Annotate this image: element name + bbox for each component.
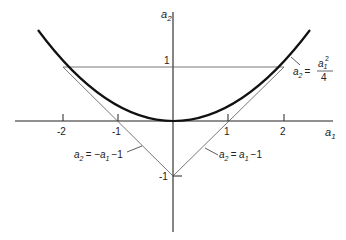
left-line-label: a2= −a1−1 bbox=[74, 149, 123, 162]
parabola-label: a2= a1 2 4 bbox=[293, 55, 333, 83]
right-line-label: a2= a1−1 bbox=[219, 149, 262, 162]
stability-triangle-diagram: a2 a1 -2 -1 1 2 1 -1 a2= a1 2 4 a2= −a1−… bbox=[0, 0, 346, 240]
x-tick-label-neg1: -1 bbox=[112, 126, 121, 137]
svg-text:4: 4 bbox=[321, 72, 327, 83]
parabola-curve bbox=[38, 30, 310, 121]
x-tick-label-2: 2 bbox=[280, 126, 286, 137]
right-line-leader bbox=[205, 148, 218, 155]
y-tick-label-1: 1 bbox=[164, 55, 170, 66]
y-tick-label-neg1: -1 bbox=[159, 171, 168, 182]
x-tick-label-neg2: -2 bbox=[57, 126, 66, 137]
left-line-leader bbox=[127, 146, 142, 152]
parabola-leader bbox=[291, 57, 300, 65]
x-axis-label: a1 bbox=[325, 126, 336, 141]
svg-text:2: 2 bbox=[325, 55, 329, 62]
x-tick-label-1: 1 bbox=[224, 126, 230, 137]
svg-text:a2=: a2= bbox=[293, 66, 310, 79]
y-axis-label: a2 bbox=[161, 8, 172, 23]
